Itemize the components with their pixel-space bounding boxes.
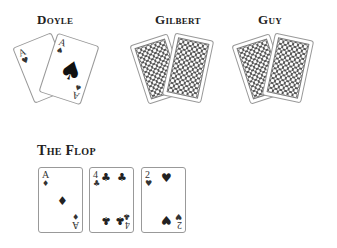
heart-icon: ♥ — [21, 56, 31, 66]
spade-icon: ♠ — [74, 82, 83, 92]
club-icon: ♣ — [93, 180, 100, 188]
heart-icon: ♥ — [161, 172, 172, 184]
diamond-icon: ♦ — [57, 195, 68, 207]
flop-card-2: 4 ♣ ♣ ♣ ♣ ♣ 4 ♣ — [89, 167, 134, 233]
spade-icon: ♠ — [56, 55, 86, 87]
card-rank: A — [72, 220, 79, 230]
spade-icon: ♠ — [55, 46, 64, 56]
club-icon: ♣ — [117, 172, 127, 183]
card-rank: 4 — [125, 220, 130, 230]
club-icon: ♣ — [123, 212, 130, 220]
club-icon: ♣ — [101, 215, 111, 226]
club-icon: ♣ — [101, 172, 111, 183]
card-back-pattern — [267, 37, 310, 98]
card-back-pattern — [167, 37, 210, 98]
heart-icon: ♥ — [161, 214, 172, 226]
diamond-icon: ♦ — [42, 180, 49, 188]
player-name-guy: Guy — [258, 12, 282, 28]
flop-card-3: 2 ♥ ♥ ♥ 2 ♥ — [141, 167, 186, 233]
flop-title: The Flop — [37, 143, 96, 159]
heart-icon: ♥ — [145, 180, 152, 188]
player-name-doyle: Doyle — [37, 12, 73, 28]
card-rank: 2 — [177, 220, 182, 230]
player-name-gilbert: Gilbert — [155, 12, 201, 28]
heart-icon: ♥ — [175, 212, 182, 220]
diamond-icon: ♦ — [72, 212, 79, 220]
flop-card-1: A ♦ ♦ A ♦ — [38, 167, 83, 233]
